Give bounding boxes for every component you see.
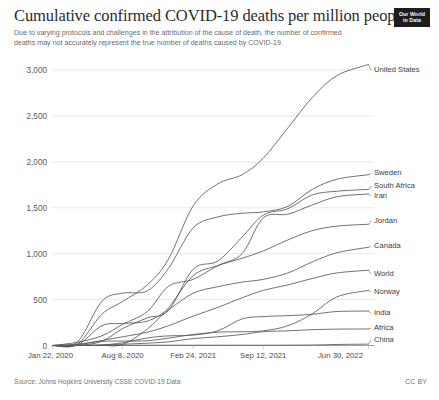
series-label[interactable]: India [374,308,391,317]
series-line[interactable] [53,194,369,346]
x-tick-label: Jan 22, 2020 [28,351,74,360]
y-tick-label: 1,000 [27,250,48,259]
series-labels-group: United StatesSwedenSouth AfricaIranJorda… [374,65,420,344]
source-note: Source: Johns Hopkins University CSSE CO… [14,378,180,385]
series-leader-line [369,186,372,189]
x-tick-label: Aug 8, 2020 [102,351,145,360]
series-line[interactable] [53,224,369,346]
series-label[interactable]: Iran [374,191,387,200]
series-label[interactable]: South Africa [374,181,416,190]
series-leader-line [369,290,372,292]
series-label[interactable]: Sweden [374,168,401,177]
series-line[interactable] [53,247,369,346]
series-leader-line [369,194,372,196]
series-leader-line [369,328,372,329]
series-leader-lines-group [369,65,372,345]
series-label[interactable]: Canada [374,241,401,250]
x-tick-label: Feb 24, 2021 [170,351,216,360]
series-leader-line [369,65,372,71]
series-leader-line [369,173,372,175]
series-label[interactable]: United States [374,65,420,74]
y-tick-label: 2,500 [27,112,48,121]
series-label[interactable]: China [374,335,395,344]
y-tick-label: 0 [42,342,47,351]
chart-container: Cumulative confirmed COVID-19 deaths per… [0,0,439,400]
y-tick-label: 500 [33,296,47,305]
line-chart-plot: 05001,0001,5002,0002,5003,000 Jan 22, 20… [0,0,439,400]
y-tick-label: 1,500 [27,204,48,213]
series-leader-line [369,221,372,224]
x-tick-label: Sep 12, 2021 [240,351,286,360]
y-tick-label: 2,000 [27,158,48,167]
series-leader-line [369,340,372,344]
series-line[interactable] [53,175,369,347]
x-tickmarks-group [53,346,369,350]
series-label[interactable]: Africa [374,323,394,332]
y-axis-labels-group: 05001,0001,5002,0002,5003,000 [27,66,48,351]
series-label[interactable]: World [374,269,394,278]
series-label[interactable]: Jordan [374,216,397,225]
x-axis-labels-group: Jan 22, 2020Aug 8, 2020Feb 24, 2021Sep 1… [28,351,363,360]
x-tick-label: Jun 30, 2022 [318,351,363,360]
series-leader-line [369,311,372,313]
gridlines-group [53,70,375,346]
series-leader-line [369,270,372,274]
series-line[interactable] [53,329,369,346]
license-note[interactable]: CC BY [405,378,427,385]
series-label[interactable]: Norway [374,287,400,296]
series-line[interactable] [53,64,369,346]
series-leader-line [369,246,372,247]
series-lines-group [53,64,369,346]
y-tick-label: 3,000 [27,66,48,75]
